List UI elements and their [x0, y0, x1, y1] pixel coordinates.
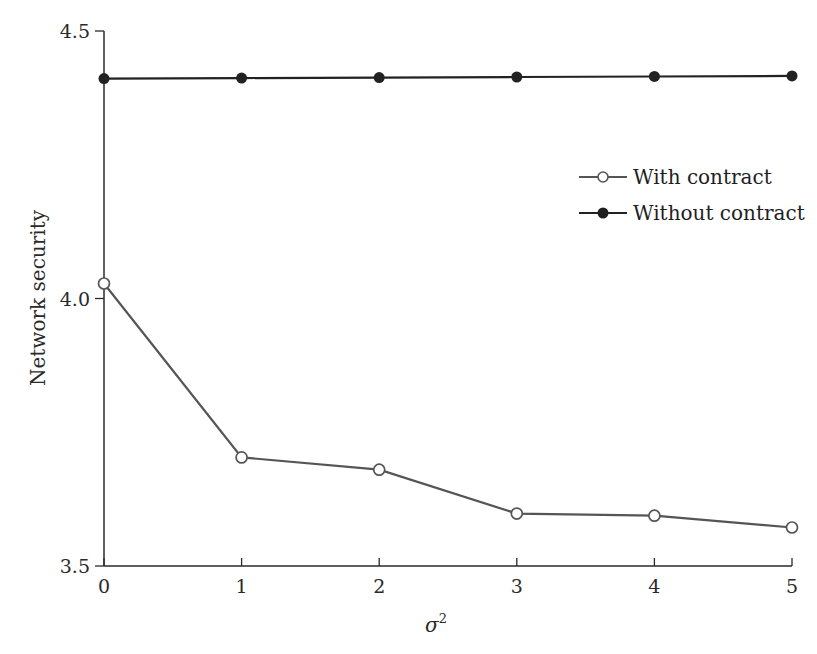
- open-circle-marker-icon: [598, 172, 608, 182]
- open-circle-marker-icon: [787, 522, 798, 533]
- legend: With contract Without contract: [579, 165, 805, 225]
- series-with-contract: [99, 278, 798, 533]
- series-layer: [99, 70, 798, 533]
- filled-circle-marker-icon: [598, 208, 609, 219]
- y-tick-label: 4.5: [60, 20, 90, 42]
- series-without-contract: [99, 70, 798, 84]
- y-tick-label: 3.5: [60, 555, 90, 577]
- axes: [104, 31, 792, 566]
- y-tick-label: 4.0: [60, 288, 90, 310]
- series-line: [104, 284, 792, 528]
- x-tick-label: 2: [373, 575, 385, 597]
- legend-item-with-contract: With contract: [579, 165, 772, 189]
- legend-label: Without contract: [633, 201, 805, 225]
- filled-circle-marker-icon: [236, 73, 247, 84]
- series-line: [104, 76, 792, 79]
- open-circle-marker-icon: [99, 278, 110, 289]
- open-circle-marker-icon: [374, 464, 385, 475]
- filled-circle-marker-icon: [787, 70, 798, 81]
- legend-label: With contract: [633, 165, 772, 189]
- y-axis-label: Network security: [26, 209, 50, 386]
- line-chart: 3.54.04.5 012345 Network security σ2 Wit…: [0, 0, 817, 654]
- x-tick-label: 1: [236, 575, 248, 597]
- open-circle-marker-icon: [236, 452, 247, 463]
- legend-item-without-contract: Without contract: [579, 201, 805, 225]
- x-ticks: 012345: [98, 558, 798, 597]
- x-tick-label: 3: [511, 575, 523, 597]
- x-tick-label: 4: [648, 575, 660, 597]
- filled-circle-marker-icon: [649, 71, 660, 82]
- open-circle-marker-icon: [511, 508, 522, 519]
- x-axis-label: σ2: [425, 611, 447, 637]
- filled-circle-marker-icon: [99, 73, 110, 84]
- open-circle-marker-icon: [649, 510, 660, 521]
- x-tick-label: 0: [98, 575, 110, 597]
- filled-circle-marker-icon: [374, 72, 385, 83]
- filled-circle-marker-icon: [511, 72, 522, 83]
- x-axis-label-superscript: 2: [439, 611, 447, 626]
- x-tick-label: 5: [786, 575, 798, 597]
- y-ticks: 3.54.04.5: [60, 20, 104, 577]
